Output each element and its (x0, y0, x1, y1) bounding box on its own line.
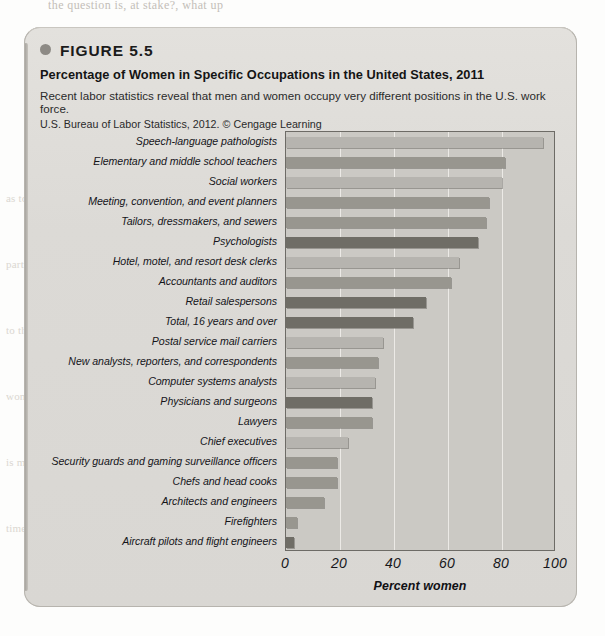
plot-area (285, 131, 555, 551)
category-label: Aircraft pilots and flight engineers (122, 535, 277, 547)
category-label: Lawyers (238, 415, 277, 427)
bar (286, 537, 294, 548)
category-label: Speech-language pathologists (136, 135, 277, 147)
bar (286, 197, 489, 208)
x-tick-label: 20 (331, 555, 347, 571)
bullet-icon (40, 44, 51, 55)
bar (286, 317, 413, 328)
x-tick-label: 80 (493, 555, 509, 571)
page-bleed-text: the question is, at stake?, what up (48, 0, 223, 13)
panel-left-edge (24, 43, 28, 591)
figure-source: U.S. Bureau of Labor Statistics, 2012. ©… (40, 118, 557, 130)
bar (286, 397, 372, 408)
figure-header: FIGURE 5.5 Percentage of Women in Specif… (40, 41, 557, 130)
category-label: Chefs and head cooks (173, 475, 277, 487)
gridline (448, 132, 449, 550)
gridline (502, 132, 503, 550)
category-label: Tailors, dressmakers, and sewers (121, 215, 277, 227)
x-axis-ticks: 020406080100 (285, 555, 555, 575)
bar (286, 157, 505, 168)
bar (286, 177, 502, 188)
category-label: Total, 16 years and over (165, 315, 277, 327)
category-label: Hotel, motel, and resort desk clerks (113, 255, 277, 267)
figure-panel: FIGURE 5.5 Percentage of Women in Specif… (24, 27, 577, 607)
category-label: Architects and engineers (162, 495, 277, 507)
category-label: Meeting, convention, and event planners (88, 195, 277, 207)
bar (286, 217, 486, 228)
category-label: Physicians and surgeons (160, 395, 277, 407)
bar (286, 277, 451, 288)
x-tick-label: 100 (543, 555, 567, 571)
bar (286, 477, 337, 488)
x-tick-label: 60 (439, 555, 455, 571)
category-label: Security guards and gaming surveillance … (52, 455, 277, 467)
category-label: New analysts, reporters, and corresponde… (68, 355, 277, 367)
category-label: Firefighters (225, 515, 277, 527)
bar (286, 257, 459, 268)
category-label: Social workers (209, 175, 277, 187)
x-tick-label: 0 (281, 555, 289, 571)
category-label: Accountants and auditors (159, 275, 277, 287)
bar (286, 297, 426, 308)
category-label: Postal service mail carriers (152, 335, 277, 347)
bar-chart: Speech-language pathologistsElementary a… (40, 131, 563, 597)
category-label: Retail salespersons (186, 295, 278, 307)
category-label: Computer systems analysts (148, 375, 277, 387)
bar (286, 417, 372, 428)
figure-number: FIGURE 5.5 (60, 42, 153, 60)
bar (286, 457, 337, 468)
figure-title: Percentage of Women in Specific Occupati… (40, 67, 557, 82)
x-axis-title: Percent women (285, 579, 555, 593)
bar (286, 517, 297, 528)
bar (286, 437, 348, 448)
bar (286, 497, 324, 508)
x-tick-label: 40 (385, 555, 401, 571)
bar (286, 237, 478, 248)
category-label: Chief executives (200, 435, 277, 447)
category-label: Elementary and middle school teachers (93, 155, 277, 167)
gridline (394, 132, 395, 550)
bar (286, 357, 378, 368)
category-label: Psychologists (213, 235, 277, 247)
bar (286, 137, 543, 148)
bar (286, 337, 383, 348)
figure-description: Recent labor statistics reveal that men … (40, 89, 557, 115)
bar (286, 377, 375, 388)
